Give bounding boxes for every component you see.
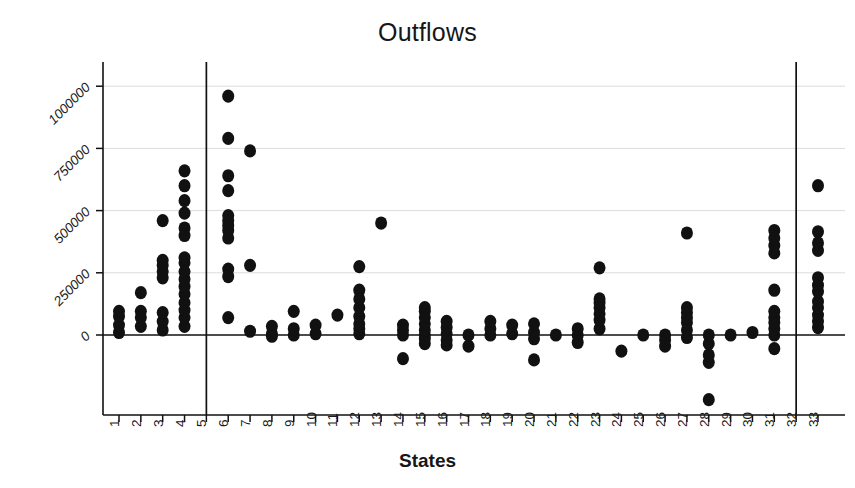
- x-tick-label: 22: [566, 412, 581, 427]
- data-point: [550, 328, 562, 341]
- x-tick-label: 19: [500, 412, 515, 427]
- data-points: [113, 90, 824, 407]
- x-tick-label: 32: [784, 412, 799, 427]
- x-axis-tick-labels: 1234567891011121314151617181920212223242…: [107, 411, 821, 427]
- data-point: [768, 284, 780, 297]
- x-tick-label: 1: [107, 419, 122, 427]
- data-point: [528, 317, 540, 330]
- data-point: [506, 318, 518, 331]
- x-tick-label: 27: [675, 412, 690, 427]
- x-tick-label: 3: [151, 419, 166, 427]
- data-point: [222, 184, 234, 197]
- data-point: [441, 315, 453, 328]
- data-point: [637, 328, 649, 341]
- data-point: [594, 292, 606, 305]
- x-tick-label: 9: [282, 419, 297, 427]
- reference-lines: [103, 62, 845, 415]
- scatter-plot-canvas: 02500005000007500001000000 1234567891011…: [0, 0, 855, 488]
- data-point: [179, 221, 191, 234]
- x-tick-label: 28: [697, 412, 712, 427]
- gridlines: [103, 86, 845, 273]
- x-tick-label: 13: [369, 412, 384, 427]
- x-tick-label: 5: [194, 419, 209, 427]
- x-tick-label: 29: [719, 412, 734, 427]
- y-tick-label: 0: [77, 328, 93, 344]
- data-point: [528, 353, 540, 366]
- x-tick-label: 33: [806, 412, 821, 427]
- data-point: [572, 322, 584, 335]
- data-point: [310, 318, 322, 331]
- x-tick-label: 15: [413, 412, 428, 427]
- x-tick-label: 12: [347, 412, 362, 427]
- data-point: [725, 328, 737, 341]
- data-point: [157, 254, 169, 267]
- data-point: [222, 262, 234, 275]
- data-point: [179, 206, 191, 219]
- data-point: [419, 301, 431, 314]
- data-point: [179, 194, 191, 207]
- x-tick-label: 25: [631, 412, 646, 427]
- x-tick-label: 6: [216, 419, 231, 427]
- data-point: [397, 352, 409, 365]
- data-point: [353, 260, 365, 273]
- data-point: [746, 326, 758, 339]
- data-point: [463, 328, 475, 341]
- data-point: [179, 179, 191, 192]
- data-point: [179, 251, 191, 264]
- data-point: [157, 214, 169, 227]
- data-point: [353, 284, 365, 297]
- data-point: [594, 261, 606, 274]
- x-tick-label: 2: [129, 419, 144, 427]
- data-point: [681, 301, 693, 314]
- x-tick-label: 24: [609, 411, 624, 427]
- data-point: [615, 345, 627, 358]
- data-point: [179, 164, 191, 177]
- data-point: [768, 224, 780, 237]
- data-point: [703, 328, 715, 341]
- x-tick-label: 20: [522, 412, 537, 427]
- data-point: [812, 225, 824, 238]
- data-point: [288, 322, 300, 335]
- x-tick-label: 31: [762, 412, 777, 427]
- data-point: [768, 305, 780, 318]
- data-point: [244, 259, 256, 272]
- data-point: [703, 393, 715, 406]
- data-point: [244, 325, 256, 338]
- y-tick-label: 500000: [51, 204, 94, 247]
- x-tick-label: 26: [653, 412, 668, 427]
- x-tick-label: 21: [544, 412, 559, 427]
- x-tick-label: 8: [260, 419, 275, 427]
- y-axis-tick-labels: 02500005000007500001000000: [45, 79, 93, 344]
- y-tick-label: 750000: [51, 142, 94, 185]
- x-tick-label: 4: [173, 419, 188, 427]
- data-point: [331, 308, 343, 321]
- data-point: [222, 311, 234, 324]
- x-tick-label: 17: [457, 412, 472, 427]
- chart-figure: Outflows 02500005000007500001000000 1234…: [0, 0, 855, 488]
- y-tick-label: 1000000: [45, 79, 93, 127]
- data-point: [397, 318, 409, 331]
- x-tick-label: 11: [325, 413, 340, 427]
- data-point: [768, 342, 780, 355]
- data-point: [484, 315, 496, 328]
- x-tick-label: 18: [478, 412, 493, 427]
- x-tick-label: 23: [588, 412, 603, 427]
- data-point: [812, 179, 824, 192]
- data-point: [135, 286, 147, 299]
- data-point: [222, 132, 234, 145]
- x-tick-label: 14: [391, 411, 406, 427]
- x-tick-label: 7: [238, 419, 253, 427]
- data-point: [222, 169, 234, 182]
- data-point: [157, 306, 169, 319]
- data-point: [135, 305, 147, 318]
- x-tick-label: 30: [740, 412, 755, 427]
- data-point: [812, 271, 824, 284]
- data-point: [681, 226, 693, 239]
- data-point: [222, 209, 234, 222]
- plot-axes: [96, 62, 845, 422]
- data-point: [288, 305, 300, 318]
- data-point: [266, 330, 278, 343]
- x-tick-label: 16: [435, 412, 450, 427]
- x-tick-label: 10: [304, 412, 319, 427]
- data-point: [659, 328, 671, 341]
